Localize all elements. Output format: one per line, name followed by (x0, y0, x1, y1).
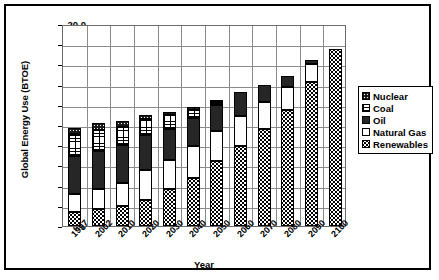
bar-segment-oil[interactable] (92, 151, 105, 189)
bar-segment-oil[interactable] (163, 129, 176, 160)
bar-2030[interactable] (163, 112, 176, 226)
vertical-gridline (205, 26, 206, 226)
bar-segment-coal[interactable] (139, 119, 152, 135)
gridline (63, 208, 345, 209)
bar-segment-oil[interactable] (68, 156, 81, 193)
bar-segment-oil[interactable] (116, 145, 129, 182)
legend-label: Coal (373, 103, 394, 114)
legend-label: Natural Gas (373, 127, 426, 138)
chart-frame: Global Energy Use (BTOE) 20.018.016.014.… (4, 4, 431, 270)
vertical-gridline (252, 26, 253, 226)
bar-2070[interactable] (258, 85, 271, 226)
bar-segment-natural-gas[interactable] (68, 194, 81, 212)
legend-item-oil[interactable]: Oil (362, 114, 428, 126)
bar-segment-natural-gas[interactable] (92, 189, 105, 210)
legend-item-nuclear[interactable]: Nuclear (362, 90, 428, 102)
bar-segment-oil[interactable] (258, 85, 271, 103)
vertical-gridline (87, 26, 88, 226)
bar-segment-natural-gas[interactable] (281, 87, 294, 110)
gridline (63, 127, 345, 128)
bar-segment-oil[interactable] (139, 135, 152, 170)
bar-segment-renewables[interactable] (305, 82, 318, 226)
vertical-gridline (300, 26, 301, 226)
bar-segment-renewables[interactable] (234, 146, 247, 226)
bar-segment-coal[interactable] (163, 115, 176, 128)
vertical-gridline (110, 26, 111, 226)
vertical-gridline (158, 26, 159, 226)
bar-segment-natural-gas[interactable] (163, 160, 176, 189)
vertical-gridline (229, 26, 230, 226)
vertical-gridline (134, 26, 135, 226)
legend-item-renewables[interactable]: Renewables (362, 138, 428, 150)
bar-segment-renewables[interactable] (210, 161, 223, 226)
legend-label: Oil (373, 115, 386, 126)
bar-2010[interactable] (116, 121, 129, 226)
bar-2040[interactable] (187, 107, 200, 226)
legend-swatch-icon (362, 92, 370, 100)
bar-segment-natural-gas[interactable] (234, 116, 247, 146)
bar-segment-natural-gas[interactable] (116, 183, 129, 206)
bar-segment-natural-gas[interactable] (305, 64, 318, 82)
bar-2100[interactable] (329, 49, 342, 226)
vertical-gridline (181, 26, 182, 226)
chart-canvas: Global Energy Use (BTOE) 20.018.016.014.… (6, 6, 429, 268)
bar-segment-coal[interactable] (68, 134, 81, 156)
bar-segment-natural-gas[interactable] (210, 131, 223, 161)
legend-swatch-icon (362, 116, 370, 124)
bar-segment-oil[interactable] (234, 92, 247, 116)
gridline (63, 46, 345, 47)
bar-segment-oil[interactable] (187, 118, 200, 146)
gridline (63, 147, 345, 148)
chart-legend: NuclearCoalOilNatural GasRenewables (358, 86, 433, 154)
gridline (63, 188, 345, 189)
vertical-gridline (323, 26, 324, 226)
y-tick-mark (58, 227, 62, 228)
gridline (63, 167, 345, 168)
bar-segment-renewables[interactable] (187, 178, 200, 226)
legend-label: Nuclear (373, 91, 408, 102)
bar-segment-natural-gas[interactable] (187, 146, 200, 177)
legend-swatch-icon (362, 128, 370, 136)
bar-2002[interactable] (92, 123, 105, 226)
bar-segment-natural-gas[interactable] (139, 170, 152, 200)
vertical-gridline (276, 26, 277, 226)
bar-2020[interactable] (139, 115, 152, 226)
bar-2060[interactable] (234, 92, 247, 226)
bar-segment-oil[interactable] (210, 105, 223, 131)
bar-2050[interactable] (210, 100, 223, 226)
legend-swatch-icon (362, 140, 370, 148)
bar-segment-nuclear[interactable] (92, 123, 105, 130)
bar-segment-renewables[interactable] (258, 129, 271, 226)
bar-segment-renewables[interactable] (329, 49, 342, 226)
bar-segment-renewables[interactable] (281, 110, 294, 226)
plot-area (62, 25, 346, 227)
bar-2080[interactable] (281, 76, 294, 226)
bar-1997[interactable] (68, 128, 81, 226)
gridline (63, 66, 345, 67)
bar-segment-coal[interactable] (92, 130, 105, 151)
legend-item-coal[interactable]: Coal (362, 102, 428, 114)
legend-label: Renewables (373, 139, 428, 150)
gridline (63, 107, 345, 108)
bar-segment-oil[interactable] (281, 76, 294, 88)
bar-segment-coal[interactable] (116, 127, 129, 146)
bar-segment-natural-gas[interactable] (258, 102, 271, 129)
gridline (63, 87, 345, 88)
x-axis-title: Year (62, 259, 346, 270)
legend-item-natural-gas[interactable]: Natural Gas (362, 126, 428, 138)
bar-2090[interactable] (305, 60, 318, 226)
legend-swatch-icon (362, 104, 370, 112)
bar-segment-coal[interactable] (187, 110, 200, 118)
